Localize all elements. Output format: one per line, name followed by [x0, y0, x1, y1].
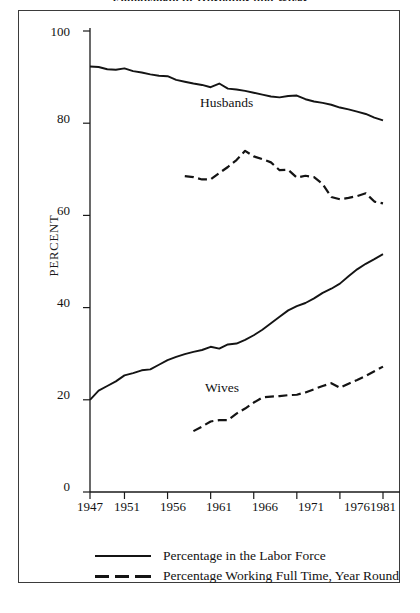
legend-swatch-dashed [95, 575, 151, 578]
y-tick-80: 80 [30, 112, 70, 125]
legend-swatch-solid [95, 555, 151, 557]
series-label-husbands: Husbands [200, 95, 253, 111]
series-label-wives: Wives [205, 380, 239, 396]
y-tick-0: 0 [30, 480, 70, 493]
y-tick-40: 40 [30, 296, 70, 309]
legend-label-labor-force: Percentage in the Labor Force [163, 548, 326, 564]
x-tick-1981: 1981 [356, 500, 410, 513]
y-tick-20: 20 [30, 388, 70, 401]
chart-page: Employment of Husbands and Wives PERCENT… [0, 0, 420, 613]
figure-title: Employment of Husbands and Wives [0, 0, 420, 1]
y-tick-60: 60 [30, 204, 70, 217]
y-tick-100: 100 [30, 25, 70, 38]
legend-label-full-time: Percentage Working Full Time, Year Round [163, 568, 399, 584]
